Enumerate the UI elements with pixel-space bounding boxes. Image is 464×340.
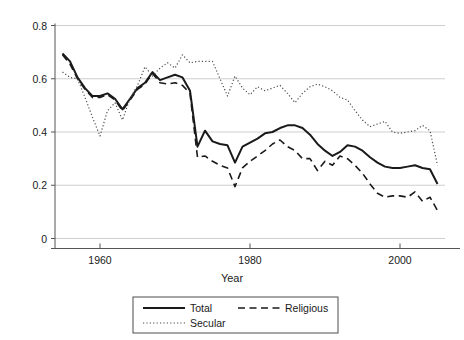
y-tick-label-4: 0.8 bbox=[32, 20, 47, 32]
legend-label-secular: Secular bbox=[190, 317, 226, 329]
legend-label-total: Total bbox=[190, 302, 212, 314]
y-tick-label-2: 0.4 bbox=[32, 126, 47, 138]
y-tick-label-1: 0.2 bbox=[32, 179, 47, 191]
chart-legend: TotalReligiousSecular bbox=[133, 297, 338, 333]
x-axis-title: Year bbox=[221, 272, 244, 284]
y-tick-label-3: 0.6 bbox=[32, 73, 47, 85]
chart-background bbox=[0, 0, 464, 340]
line-chart: 00.20.40.60.8 196019802000 Year TotalRel… bbox=[0, 0, 464, 340]
x-tick-label-2: 2000 bbox=[388, 254, 412, 266]
x-tick-label-0: 1960 bbox=[88, 254, 112, 266]
legend-label-religious: Religious bbox=[285, 302, 328, 314]
x-tick-label-1: 1980 bbox=[238, 254, 262, 266]
chart-figure: 00.20.40.60.8 196019802000 Year TotalRel… bbox=[0, 0, 464, 340]
y-tick-label-0: 0 bbox=[41, 233, 47, 245]
